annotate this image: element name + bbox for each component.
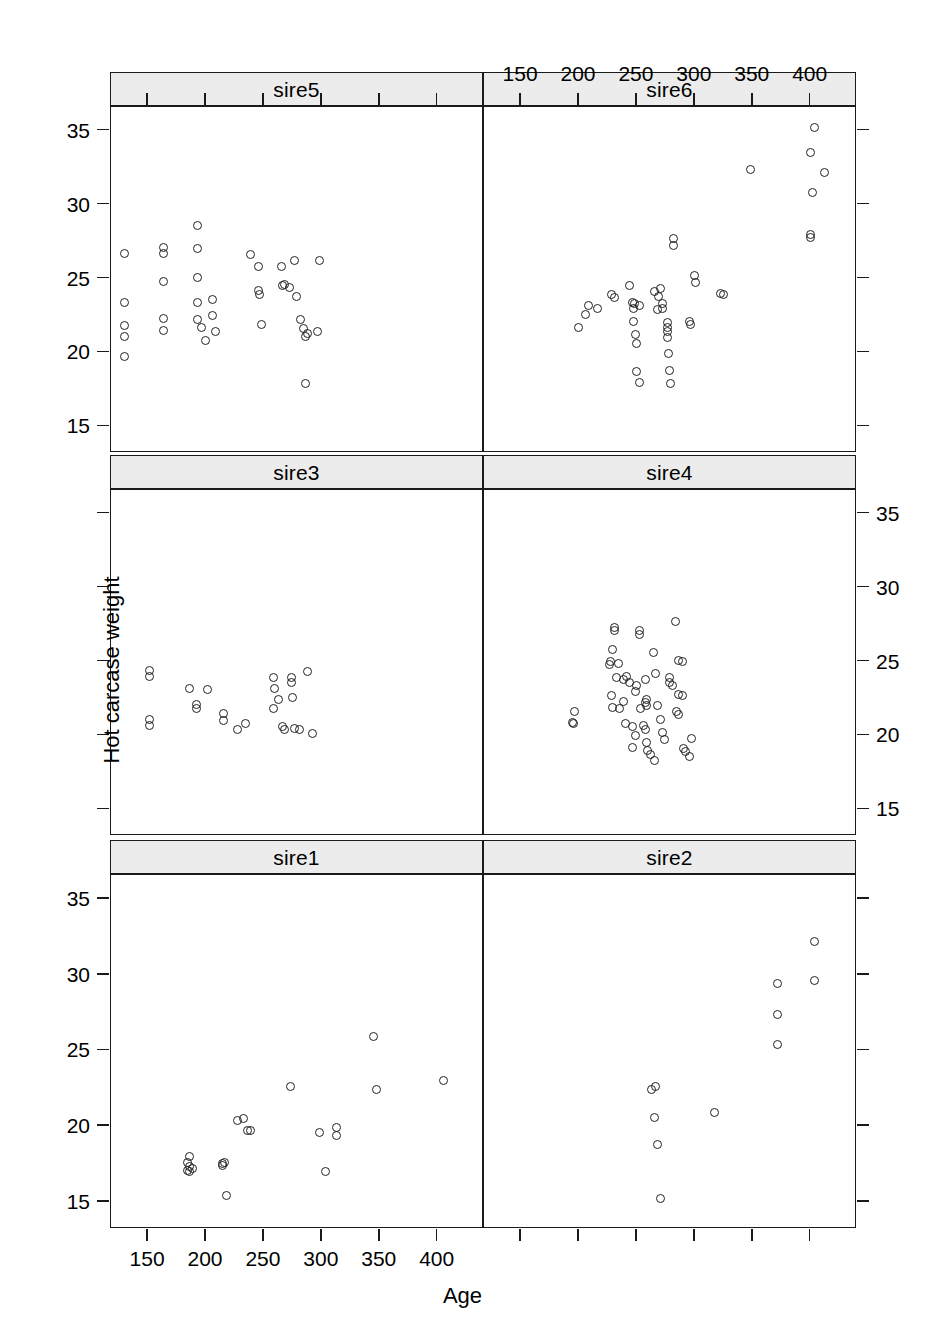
data-point	[285, 283, 294, 292]
data-point	[301, 379, 310, 388]
data-point	[246, 250, 255, 259]
data-point	[254, 262, 263, 271]
data-point	[574, 323, 583, 332]
data-point	[211, 327, 220, 336]
data-point	[372, 1085, 381, 1094]
y-axis-tick	[857, 1049, 869, 1051]
data-point	[671, 617, 680, 626]
x-axis-tick	[577, 1229, 579, 1241]
data-point	[193, 244, 202, 253]
data-point	[257, 320, 266, 329]
y-axis-tick-label: 30	[44, 963, 90, 984]
data-point	[201, 336, 210, 345]
data-point	[280, 725, 289, 734]
x-axis-tick	[519, 93, 521, 105]
data-point	[313, 327, 322, 336]
y-axis-tick	[857, 1200, 869, 1202]
y-axis-tick	[857, 351, 869, 353]
x-axis-tick-label: 350	[361, 1248, 396, 1269]
data-point	[241, 719, 250, 728]
y-axis-tick-label: 30	[44, 193, 90, 214]
data-point	[296, 315, 305, 324]
data-point	[274, 695, 283, 704]
data-point	[635, 630, 644, 639]
data-point	[629, 317, 638, 326]
panel-sire6	[483, 106, 856, 452]
data-point	[650, 756, 659, 765]
data-point	[651, 669, 660, 678]
y-axis-tick	[97, 1049, 109, 1051]
data-point	[270, 684, 279, 693]
data-point	[808, 188, 817, 197]
data-point	[269, 673, 278, 682]
data-point	[584, 301, 593, 310]
x-axis-tick	[378, 1229, 380, 1241]
data-point	[660, 735, 669, 744]
data-point	[656, 1194, 665, 1203]
x-axis-tick-label: 150	[130, 1248, 165, 1269]
y-axis-tick	[857, 129, 869, 131]
data-point	[277, 262, 286, 271]
x-axis-tick	[320, 93, 322, 105]
y-axis-tick	[857, 660, 869, 662]
data-point	[710, 1108, 719, 1117]
data-point	[632, 367, 641, 376]
y-axis-tick-label: 35	[876, 502, 922, 523]
data-point	[650, 1113, 659, 1122]
data-point	[632, 339, 641, 348]
data-point	[653, 701, 662, 710]
data-point	[222, 1191, 231, 1200]
data-point	[635, 301, 644, 310]
data-point	[636, 704, 645, 713]
data-point	[810, 937, 819, 946]
x-axis-tick-label: 350	[734, 63, 769, 84]
y-axis-tick	[97, 973, 109, 975]
data-point	[286, 1082, 295, 1091]
x-axis-tick	[320, 1229, 322, 1241]
x-axis-tick	[204, 93, 206, 105]
data-point	[674, 710, 683, 719]
data-point	[193, 273, 202, 282]
panel-strip-label: sire4	[646, 462, 693, 483]
data-point	[605, 660, 614, 669]
data-point	[665, 366, 674, 375]
y-axis-tick-label: 15	[44, 1190, 90, 1211]
x-axis-tick-label: 200	[187, 1248, 222, 1269]
y-axis-tick-label: 15	[44, 415, 90, 436]
x-axis-tick	[519, 1229, 521, 1241]
y-axis-tick	[97, 512, 109, 514]
data-point	[719, 290, 728, 299]
y-axis-tick	[857, 512, 869, 514]
data-point	[649, 648, 658, 657]
y-axis-tick-label: 35	[44, 888, 90, 909]
x-axis-tick	[635, 1229, 637, 1241]
data-point	[332, 1131, 341, 1140]
data-point	[120, 321, 129, 330]
data-point	[233, 1116, 242, 1125]
data-point	[295, 725, 304, 734]
data-point	[663, 333, 672, 342]
data-point	[203, 685, 212, 694]
y-axis-tick-label: 20	[876, 724, 922, 745]
data-point	[288, 693, 297, 702]
data-point	[208, 311, 217, 320]
data-point	[820, 168, 829, 177]
data-point	[303, 329, 312, 338]
x-axis-tick	[577, 93, 579, 105]
x-axis-tick-label: 400	[419, 1248, 454, 1269]
data-point	[292, 292, 301, 301]
data-point	[581, 310, 590, 319]
panel-sire1	[110, 874, 483, 1228]
data-point	[664, 349, 673, 358]
x-axis-tick-label: 300	[303, 1248, 338, 1269]
y-axis-tick	[857, 586, 869, 588]
x-axis-tick-label: 150	[503, 63, 538, 84]
data-point	[145, 672, 154, 681]
data-point	[120, 352, 129, 361]
x-axis-tick	[262, 1229, 264, 1241]
x-axis-tick-label: 200	[560, 63, 595, 84]
data-point	[369, 1032, 378, 1041]
data-point	[570, 707, 579, 716]
panel-strip-sire3: sire3	[110, 455, 483, 489]
data-point	[120, 298, 129, 307]
